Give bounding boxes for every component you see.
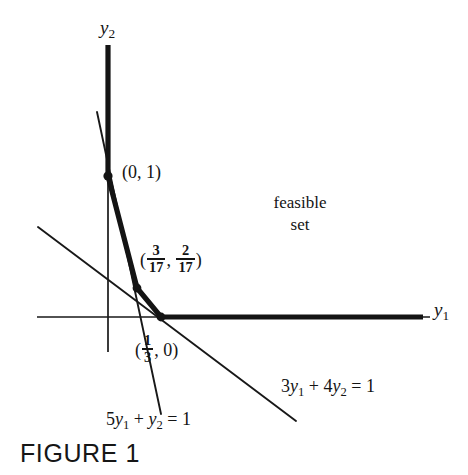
feasible-set-line-2: set [291, 215, 310, 234]
axis-label-y1-subscript: 1 [442, 308, 449, 323]
plus-operator: + [304, 376, 323, 396]
fraction-numerator: 3 [147, 243, 165, 258]
paren-close: ) [196, 250, 202, 270]
coordinate-y: 1 [146, 162, 155, 182]
figure-container: y2 y1 (0, 1) (317, 217) (13, 0) feasible… [0, 0, 468, 475]
equals-operator: = [347, 376, 366, 396]
right-hand-side: 1 [366, 376, 375, 396]
axis-label-y1: y1 [434, 300, 449, 323]
vertex-marker-0-1 [103, 171, 112, 180]
paren-close: ) [172, 340, 178, 360]
plus-operator: + [129, 409, 148, 429]
right-hand-side: 1 [182, 409, 191, 429]
point-label-0-1: (0, 1) [122, 163, 161, 182]
coordinate-x: 0 [128, 162, 137, 182]
figure-caption: FIGURE 1 [20, 440, 140, 466]
axis-label-y2: y2 [100, 18, 115, 41]
fraction-numerator: 1 [142, 333, 153, 348]
comma: , [166, 250, 175, 270]
equals-operator: = [163, 409, 182, 429]
constraint-label-3y1-4y2: 3y1 + 4y2 = 1 [281, 377, 375, 399]
comma: , [154, 340, 163, 360]
fraction-denominator: 3 [142, 350, 153, 365]
fraction-denominator: 17 [176, 260, 194, 275]
axis-label-y2-subscript: 2 [108, 26, 115, 41]
variable-1: y [115, 409, 123, 429]
fraction-3-17: 317 [147, 243, 165, 275]
vertex-marker-3-17-2-17 [133, 284, 142, 293]
paren-open: ( [135, 340, 141, 360]
paren-open: ( [140, 250, 146, 270]
point-label-3-17-2-17: (317, 217) [140, 243, 202, 275]
coefficient-1: 5 [106, 409, 115, 429]
paren-close: ) [155, 162, 161, 182]
variable-1: y [290, 376, 298, 396]
fraction-1-3: 13 [142, 333, 153, 365]
comma: , [137, 162, 146, 182]
fraction-2-17: 217 [176, 243, 194, 275]
coefficient-1: 3 [281, 376, 290, 396]
feasible-set-annotation: feasibleset [248, 192, 352, 236]
fraction-numerator: 2 [176, 243, 194, 258]
point-label-1-3-0: (13, 0) [135, 333, 178, 365]
feasible-set-line-1: feasible [274, 193, 327, 212]
vertex-marker-1-3-0 [157, 313, 166, 322]
coordinate-y: 0 [163, 340, 172, 360]
constraint-label-5y1-y2: 5y1 + y2 = 1 [106, 410, 191, 432]
figure-graphic [0, 0, 468, 475]
fraction-denominator: 17 [147, 260, 165, 275]
